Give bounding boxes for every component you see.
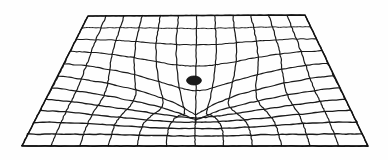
grid-canvas <box>0 0 388 160</box>
singularity-point-mass <box>187 76 202 85</box>
spacetime-curvature-figure <box>0 0 388 160</box>
singularity-blob <box>187 76 202 85</box>
